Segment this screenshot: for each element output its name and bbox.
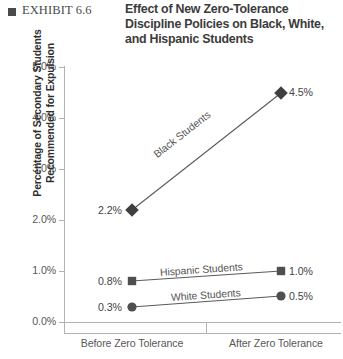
- data-value-label-black-before: 2.2%: [98, 204, 122, 216]
- data-point-marker-black-after: [274, 86, 288, 100]
- data-point-marker-hispanic-before: [128, 277, 136, 285]
- data-value-label-hispanic-before: 0.8%: [98, 275, 122, 287]
- chart-plot-area: 5.0% 4.0% 3.0% 2.0% 1.0% 0.0% Percentage…: [0, 0, 343, 359]
- series-graphics: [0, 0, 343, 359]
- data-point-marker-hispanic-after: [277, 267, 285, 275]
- data-point-marker-white-before: [127, 302, 136, 311]
- data-value-label-hispanic-after: 1.0%: [289, 265, 313, 277]
- data-point-marker-black-before: [125, 203, 139, 217]
- data-value-label-white-before: 0.3%: [98, 301, 122, 313]
- data-value-label-black-after: 4.5%: [289, 86, 313, 98]
- data-point-marker-white-after: [276, 291, 285, 300]
- data-value-label-white-after: 0.5%: [289, 290, 313, 302]
